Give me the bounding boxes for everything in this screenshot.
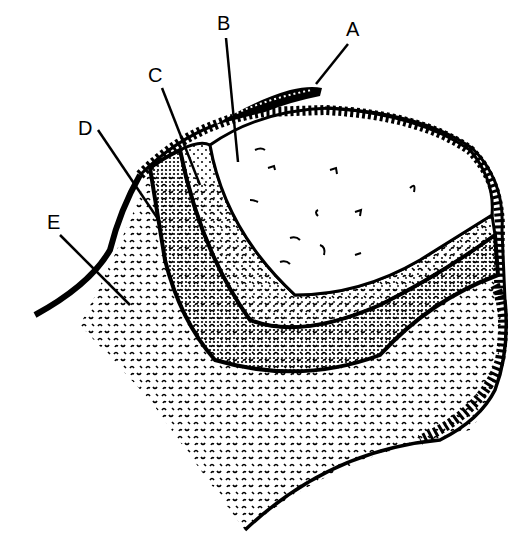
label-e: E (47, 211, 60, 233)
label-c: C (148, 64, 162, 86)
leader-a (316, 44, 348, 84)
label-d: D (78, 117, 92, 139)
label-a: A (346, 18, 360, 40)
cross-section-diagram: A B C D E (0, 0, 528, 548)
label-b: B (217, 12, 230, 34)
